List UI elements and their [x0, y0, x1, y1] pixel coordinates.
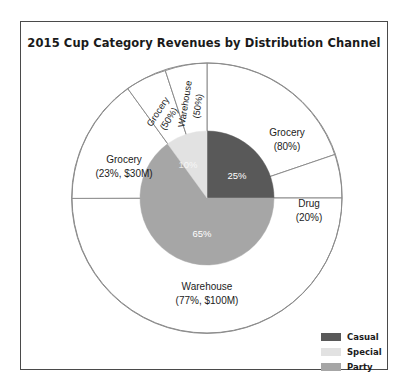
legend-label-special: Special	[347, 347, 382, 357]
inner-label-special: 10%	[178, 159, 198, 170]
legend-swatch-special	[321, 348, 341, 356]
outer-label-grocery-80-line1: Grocery	[269, 127, 305, 138]
legend-item-party[interactable]: Party	[321, 359, 401, 374]
outer-label-warehouse-77-line2: (77%, $100M)	[176, 295, 239, 306]
legend-label-casual: Casual	[347, 332, 379, 342]
outer-label-warehouse-77-line1: Warehouse	[182, 281, 233, 292]
chart-legend: Casual Special Party	[321, 329, 401, 374]
inner-label-party: 65%	[192, 228, 212, 239]
outer-label-grocery-80-line2: (80%)	[274, 141, 301, 152]
outer-label-grocery-23-line1: Grocery	[106, 154, 142, 165]
legend-item-special[interactable]: Special	[321, 344, 401, 359]
legend-swatch-casual	[321, 333, 341, 341]
legend-swatch-party	[321, 363, 341, 371]
inner-pie-group	[140, 131, 274, 265]
outer-label-drug-20-line2: (20%)	[296, 212, 323, 223]
legend-label-party: Party	[347, 362, 373, 372]
inner-label-casual: 25%	[227, 170, 247, 181]
outer-label-drug-20-line1: Drug	[298, 198, 320, 209]
sunburst-pie-chart: 25% 65% 10% Grocery (80%) Drug (20%) War…	[21, 22, 389, 371]
outer-label-grocery-23-line2: (23%, $30M)	[95, 168, 152, 179]
legend-item-casual[interactable]: Casual	[321, 329, 401, 344]
chart-frame: 2015 Cup Category Revenues by Distributi…	[20, 21, 388, 370]
